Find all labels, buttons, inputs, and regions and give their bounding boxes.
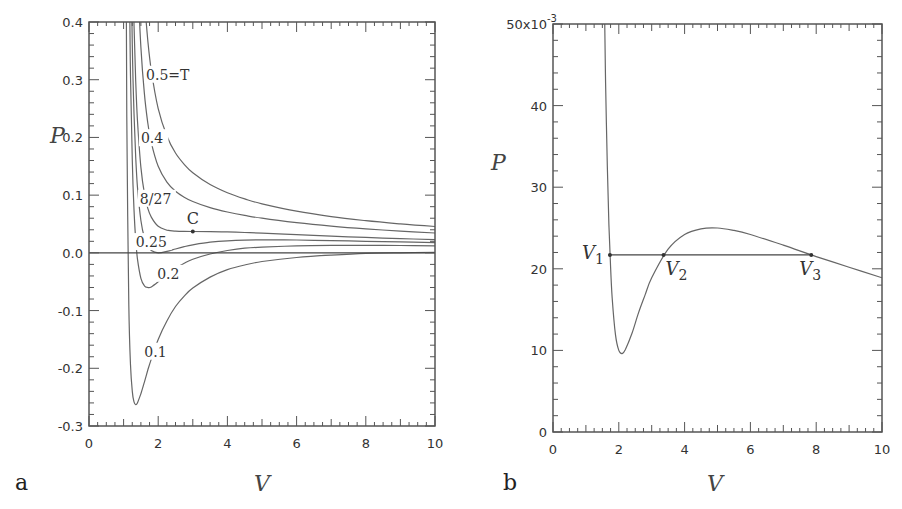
x-tick-label: 2 [615,442,623,457]
curve-0.2 [125,0,435,288]
x-tick-label: 0 [85,436,93,451]
y-axis-label-a: P [49,123,66,148]
volume-point-marker [809,253,813,257]
curve-T=0.26 [605,21,882,354]
curve-label: 0.2 [157,266,179,282]
x-axis-label-b: V [707,471,725,496]
curve-0.25 [125,0,435,253]
y-tick-label: 50x10 [506,17,547,32]
figure: 0246810-0.3-0.2-0.10.00.10.20.30.4 0.5=T… [0,0,902,509]
y-tick-label: 0.2 [62,130,83,145]
volume-point-label: V1 [582,242,604,267]
y-tick-label: -0.3 [58,419,83,434]
x-tick-label: 0 [549,442,557,457]
y-exponent: -3 [547,13,557,24]
volume-point-label: V2 [666,258,688,283]
critical-point-label: C [187,209,199,228]
critical-point-marker [191,230,195,234]
y-tick-label: 0 [539,425,547,440]
curve-label: 0.4 [141,130,163,146]
y-tick-label: 30 [530,180,547,195]
x-tick-label: 10 [874,442,891,457]
curve-label: 0.1 [144,344,166,360]
curve-labels: 0.5=T0.48/270.250.20.1C [134,66,199,360]
y-tick-label: 10 [530,343,547,358]
y-tick-label: 0.4 [62,15,83,30]
y-tick-label: -0.2 [58,361,83,376]
x-tick-label: 10 [427,436,444,451]
volume-point-labels: V1V2V3 [582,242,821,283]
y-tick-label: 0.1 [62,188,83,203]
y-tick-label: -0.1 [58,304,83,319]
panel-label-a: a [15,470,28,495]
x-tick-label: 8 [812,442,820,457]
volume-point-label: V3 [799,258,821,283]
x-tick-label: 4 [223,436,231,451]
y-axis-label-b: P [490,150,507,175]
chart-panel-b: 024681001020304050x10-3 V1V2V3 P V b [490,13,890,496]
x-axis-label-a: V [254,471,272,496]
y-tick-label: 20 [530,262,547,277]
axis-ticks-b: 024681001020304050x10-3 [506,13,890,457]
curve-label: 0.5=T [146,67,190,83]
chart-panel-a: 0246810-0.3-0.2-0.10.00.10.20.30.4 0.5=T… [15,0,443,496]
curve-label: 8/27 [140,191,171,207]
y-tick-label: 40 [530,99,547,114]
y-tick-label: 0.3 [62,73,83,88]
x-tick-label: 8 [362,436,370,451]
panel-label-b: b [503,470,517,495]
volume-point-marker [608,253,612,257]
x-tick-label: 6 [292,436,300,451]
x-tick-label: 4 [680,442,688,457]
x-tick-label: 2 [154,436,162,451]
volume-point-marker [662,253,666,257]
isotherm-curve [605,21,882,354]
y-tick-label: 0.0 [62,246,83,261]
x-tick-label: 6 [746,442,754,457]
curve-label: 0.25 [136,234,167,250]
